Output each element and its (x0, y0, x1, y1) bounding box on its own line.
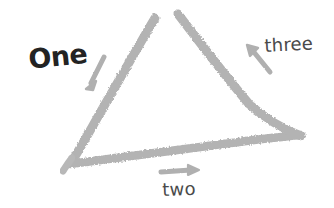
triangle-side-bottom (70, 135, 301, 164)
triangle-sketch-svg (0, 0, 334, 208)
arrow-two (161, 165, 199, 175)
side-label-two: two (162, 180, 196, 199)
triangle-corner-overshoot (63, 158, 72, 171)
triangle-side-right (178, 14, 301, 136)
side-label-three: three (264, 34, 314, 55)
side-label-one: One (27, 40, 88, 73)
arrow-one (86, 57, 104, 90)
sketch-canvas: One two three (0, 0, 334, 208)
